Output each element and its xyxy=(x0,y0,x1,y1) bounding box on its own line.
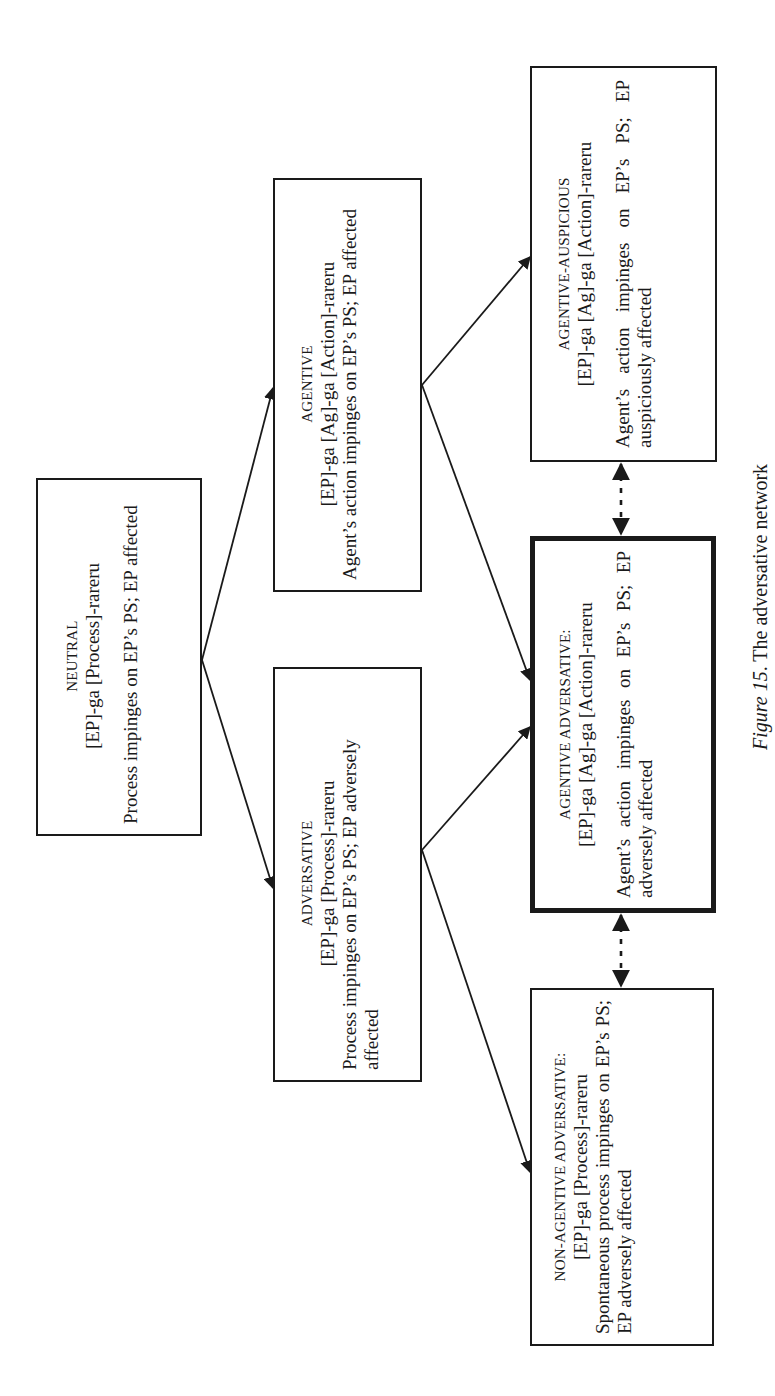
node-agentive-auspicious: AGENTIVE-AUSPICIOUS [EP]-ga [Ag]-ga [Act… xyxy=(530,66,717,462)
node-agentive: AGENTIVE [EP]-ga [Ag]-ga [Action]-rareru… xyxy=(273,178,422,592)
node-description: Agent’s action impinges on EP’s PS; EP a… xyxy=(612,80,656,448)
node-title: ADVERSATIVE xyxy=(297,677,317,1070)
node-formula: [EP]-ga [Ag]-ga [Action]-rareru xyxy=(317,188,339,580)
node-formula: [EP]-ga [Process]-rareru xyxy=(570,1000,592,1334)
node-title: NON-AGENTIVE ADVERSATIVE: xyxy=(550,1000,570,1334)
node-title: AGENTIVE xyxy=(297,188,317,580)
node-non-agentive-adversative: NON-AGENTIVE ADVERSATIVE: [EP]-ga [Proce… xyxy=(530,988,714,1346)
edge-adversative-agentive-adversative xyxy=(422,727,530,850)
edge-neutral-agentive xyxy=(202,388,273,660)
edge-agentive-auspicious xyxy=(422,257,530,385)
node-description: Spontaneous process impinges on EP’s PS;… xyxy=(592,1000,636,1334)
edge-adversative-non-agentive xyxy=(422,850,530,1172)
figure-label: Figure 15 xyxy=(749,671,771,750)
node-formula: [EP]-ga [Ag]-ga [Action]-rareru xyxy=(574,80,596,448)
node-title: AGENTIVE ADVERSATIVE: xyxy=(555,551,575,898)
edge-neutral-adversative xyxy=(202,660,273,888)
node-description: Agent’s action impinges on EP’s PS; EP a… xyxy=(339,188,361,580)
node-description: Process impinges on EP’s PS; EP adversel… xyxy=(339,677,383,1070)
node-formula: [EP]-ga [Process]-rareru xyxy=(317,677,339,1070)
node-description: Process impinges on EP’s PS; EP affected xyxy=(120,488,142,824)
node-description: Agent’s action impinges on EP’s PS; EP a… xyxy=(613,551,657,898)
node-formula: [EP]-ga [Process]-rareru xyxy=(82,488,104,824)
figure-caption-text: . The adversative network xyxy=(749,464,771,671)
node-title: AGENTIVE-AUSPICIOUS xyxy=(554,80,574,448)
node-title: NEUTRAL xyxy=(62,488,82,824)
adversative-network-diagram: NEUTRAL [EP]-ga [Process]-rareru Process… xyxy=(0,0,775,1396)
node-agentive-adversative: AGENTIVE ADVERSATIVE: [EP]-ga [Ag]-ga [A… xyxy=(530,536,716,913)
node-adversative: ADVERSATIVE [EP]-ga [Process]-rareru Pro… xyxy=(273,667,422,1082)
node-neutral: NEUTRAL [EP]-ga [Process]-rareru Process… xyxy=(36,478,202,836)
edge-agentive-agentive-adversative xyxy=(422,385,530,680)
node-formula: [EP]-ga [Ag]-ga [Action]-rareru xyxy=(575,551,597,898)
figure-caption: Figure 15. The adversative network xyxy=(748,480,772,750)
